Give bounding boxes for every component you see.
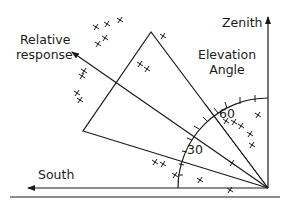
data-point-cross: [249, 142, 255, 148]
data-point-cross: [160, 161, 166, 167]
tick-label-30: 30: [187, 143, 203, 157]
data-point-cross: [144, 66, 150, 72]
zenith-label: Zenith: [222, 16, 262, 30]
data-point-cross: [77, 97, 83, 103]
elevation-angle-label-line2: Angle: [198, 63, 256, 77]
elevation-angle-label-line1: Elevation: [198, 48, 256, 62]
data-point-cross: [152, 159, 158, 165]
data-point-cross: [95, 41, 101, 47]
south-label: South: [38, 168, 74, 182]
data-point-cross: [137, 61, 143, 67]
relative-response-label-line1: Relative: [20, 33, 70, 47]
data-point-cross: [172, 172, 178, 178]
data-point-cross: [102, 35, 108, 41]
data-point-cross: [238, 123, 244, 129]
data-point-cross: [247, 131, 253, 137]
data-point-cross: [74, 90, 80, 96]
tick-label-60: 60: [219, 107, 235, 121]
data-point-cross: [255, 112, 261, 118]
data-point-cross: [197, 177, 203, 183]
data-point-cross: [160, 33, 166, 39]
radial-line-upper: [205, 104, 268, 188]
data-point-cross: [93, 24, 99, 30]
arc-ticks: [178, 95, 255, 175]
data-point-cross: [117, 17, 123, 23]
relative-response-label-line2: response: [16, 48, 73, 62]
data-point-cross: [104, 21, 110, 27]
